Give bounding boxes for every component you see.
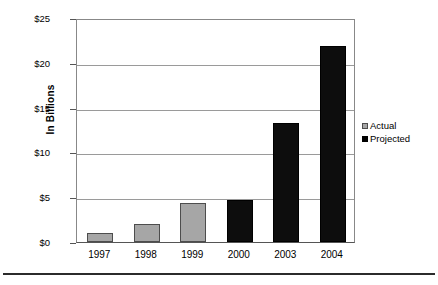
x-axis-tick-label: 1998 — [123, 249, 170, 260]
plot-area — [76, 19, 355, 243]
gridline — [77, 110, 354, 111]
y-axis-tick-label: $0 — [4, 238, 50, 248]
bar-1997 — [87, 233, 113, 242]
bar-1999 — [180, 203, 206, 242]
x-axis-tick-label: 2003 — [262, 249, 309, 260]
legend-label: Projected — [370, 133, 410, 145]
gridline — [77, 65, 354, 66]
y-axis-tick-mark — [70, 243, 76, 244]
bar-1998 — [134, 224, 160, 242]
legend-swatch-icon — [362, 123, 368, 129]
x-axis-tick-label: 1999 — [169, 249, 216, 260]
bar-2000 — [227, 200, 253, 242]
x-axis-tick-label: 2000 — [216, 249, 263, 260]
bar-chart-figure: In Billions $0$5$10$15$20$25 19971998199… — [0, 0, 438, 285]
chart-legend: ActualProjected — [362, 120, 410, 146]
legend-swatch-icon — [362, 136, 368, 142]
footer-rule — [3, 273, 435, 275]
gridline — [77, 154, 354, 155]
x-axis-tick-label: 2004 — [309, 249, 356, 260]
legend-item: Actual — [362, 120, 410, 132]
y-axis-tick-label: $5 — [4, 193, 50, 203]
y-axis-tick-label: $20 — [4, 59, 50, 69]
bar-2003 — [273, 123, 299, 242]
gridline — [77, 199, 354, 200]
legend-item: Projected — [362, 133, 410, 145]
legend-label: Actual — [370, 120, 396, 132]
bar-2004 — [320, 46, 346, 242]
y-axis-tick-label: $15 — [4, 104, 50, 114]
y-axis-tick-label: $25 — [4, 14, 50, 24]
y-axis-tick-label: $10 — [4, 148, 50, 158]
x-axis-tick-label: 1997 — [76, 249, 123, 260]
